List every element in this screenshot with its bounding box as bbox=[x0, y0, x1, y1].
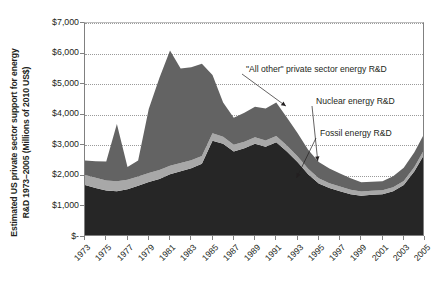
x-tick-label: 1991 bbox=[259, 243, 284, 268]
y-tick-label: $1,000 bbox=[27, 201, 79, 210]
x-tick-mark bbox=[297, 236, 298, 240]
y-tick-mark bbox=[80, 114, 84, 115]
x-tick-mark bbox=[212, 236, 213, 240]
x-tick-label: 1973 bbox=[68, 243, 93, 268]
x-tick-label: 1999 bbox=[344, 243, 369, 268]
x-tick-label: 1975 bbox=[89, 243, 114, 268]
y-tick-label: $2,000 bbox=[27, 170, 79, 179]
x-tick-mark bbox=[403, 236, 404, 240]
y-tick-mark bbox=[80, 144, 84, 145]
annotation-label: Nuclear energy R&D bbox=[316, 96, 395, 106]
y-tick-mark bbox=[80, 53, 84, 54]
annotation-label: "All other" private sector energy R&D bbox=[246, 64, 387, 74]
x-tick-label: 1997 bbox=[323, 243, 348, 268]
y-tick-mark bbox=[80, 205, 84, 206]
x-tick-mark bbox=[190, 236, 191, 240]
y-tick-mark bbox=[80, 83, 84, 84]
x-tick-mark bbox=[275, 236, 276, 240]
x-tick-label: 1993 bbox=[280, 243, 305, 268]
y-tick-mark bbox=[80, 175, 84, 176]
y-tick-label: $5,000 bbox=[27, 79, 79, 88]
x-tick-mark bbox=[424, 236, 425, 240]
x-tick-mark bbox=[169, 236, 170, 240]
x-tick-mark bbox=[127, 236, 128, 240]
x-tick-mark bbox=[105, 236, 106, 240]
x-tick-label: 1981 bbox=[153, 243, 178, 268]
x-tick-label: 1989 bbox=[238, 243, 263, 268]
x-tick-mark bbox=[254, 236, 255, 240]
y-tick-label: $4,000 bbox=[27, 109, 79, 118]
x-tick-mark bbox=[148, 236, 149, 240]
x-tick-label: 1987 bbox=[216, 243, 241, 268]
x-tick-label: 1983 bbox=[174, 243, 199, 268]
x-tick-mark bbox=[84, 236, 85, 240]
x-tick-mark bbox=[339, 236, 340, 240]
annotation-label: Fossil energy R&D bbox=[320, 128, 392, 138]
x-tick-mark bbox=[318, 236, 319, 240]
y-tick-label: $3,000 bbox=[27, 140, 79, 149]
y-tick-mark bbox=[80, 22, 84, 23]
y-tick-label: $- bbox=[27, 232, 79, 241]
y-axis-title-line-1: Estimated US private sector support for … bbox=[8, 48, 20, 236]
y-tick-label: $7,000 bbox=[27, 18, 79, 27]
x-tick-label: 1977 bbox=[110, 243, 135, 268]
x-tick-label: 2003 bbox=[386, 243, 411, 268]
x-tick-label: 1985 bbox=[195, 243, 220, 268]
x-tick-mark bbox=[382, 236, 383, 240]
x-tick-label: 2001 bbox=[365, 243, 390, 268]
chart-root: Estimated US private sector support for … bbox=[0, 0, 439, 285]
y-tick-label: $6,000 bbox=[27, 48, 79, 57]
x-tick-label: 1995 bbox=[301, 243, 326, 268]
x-tick-label: 1979 bbox=[131, 243, 156, 268]
x-tick-mark bbox=[360, 236, 361, 240]
x-tick-label: 2005 bbox=[408, 243, 433, 268]
x-tick-mark bbox=[233, 236, 234, 240]
